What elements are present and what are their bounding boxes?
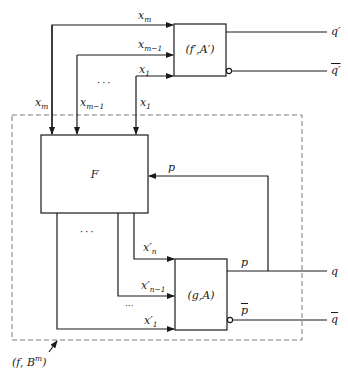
label-g-xn1: x′n−1 bbox=[141, 280, 166, 294]
wire-feedback-p bbox=[149, 176, 268, 271]
label-q-prime: q′ bbox=[331, 26, 341, 37]
top-block-label: (f′,A′) bbox=[174, 44, 226, 55]
label-g-xn: x′n bbox=[143, 242, 157, 256]
middle-ellipsis: ··· bbox=[80, 226, 96, 237]
label-q: q bbox=[331, 266, 338, 277]
label-sub: m−1 bbox=[86, 102, 104, 111]
label-f-xm1: xm−1 bbox=[80, 97, 104, 111]
label-sub: m bbox=[144, 15, 151, 24]
label-top-x1: x1 bbox=[139, 64, 150, 78]
label-sub: 1 bbox=[145, 69, 150, 78]
label-sub: n−1 bbox=[150, 285, 166, 294]
label-sub: 1 bbox=[153, 320, 158, 329]
wire-x1-prime bbox=[57, 213, 174, 329]
label-top-xm1: xm−1 bbox=[138, 39, 162, 53]
label-sub: m bbox=[41, 102, 48, 111]
label-g-x1: x′1 bbox=[144, 315, 157, 329]
top-ellipsis: ··· bbox=[97, 77, 113, 88]
label-base: x′ bbox=[144, 314, 153, 327]
label-sub: m−1 bbox=[144, 44, 162, 53]
enclosure-label-end: ) bbox=[42, 356, 46, 369]
g-block-label: (g,A) bbox=[175, 290, 227, 301]
enclosure-label-text: (f, B bbox=[12, 356, 35, 369]
inverter-bubble-bottom bbox=[227, 317, 232, 322]
circuit-diagram: (f′,A′) F (g,A) xm xm−1 x1 ··· xm xm−1 x… bbox=[0, 0, 348, 378]
label-f-x1: x1 bbox=[140, 97, 151, 111]
vertical-ellipsis: ··· bbox=[125, 303, 129, 309]
label-q-bar: q bbox=[331, 314, 338, 325]
enclosure-label: (f, Bm) bbox=[12, 355, 46, 368]
label-p-bar: p bbox=[241, 305, 248, 316]
label-sub: n bbox=[152, 247, 157, 256]
inverter-bubble-top bbox=[226, 68, 231, 73]
label-p: p bbox=[241, 257, 248, 268]
label-feedback-p: p bbox=[168, 162, 175, 173]
diagram-graphics bbox=[0, 0, 348, 378]
enclosure-pointer bbox=[49, 341, 57, 352]
label-base: x′ bbox=[143, 241, 152, 254]
label-sub: 1 bbox=[146, 102, 151, 111]
label-base: x′ bbox=[141, 279, 150, 292]
label-top-xm: xm bbox=[138, 10, 151, 24]
f-block-label: F bbox=[41, 169, 148, 180]
label-q-prime-bar: q′ bbox=[331, 65, 341, 76]
label-f-xm: xm bbox=[35, 97, 48, 111]
